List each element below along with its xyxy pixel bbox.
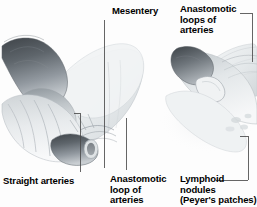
label-anastomotic-loop-of-arteries: Anastomotic loop of arteries (110, 174, 166, 206)
peyers-patch-4 (245, 114, 252, 118)
label-anastomotic-loops-of-arteries: Anastomotic loops of arteries (180, 4, 236, 36)
peyers-patch-2 (240, 124, 248, 129)
right-illustration-group (158, 44, 257, 154)
label-mesentery: Mesentery (112, 6, 158, 17)
peyers-patch-1 (231, 117, 241, 123)
label-lymphoid-nodules: Lymphoid nodules (Peyer's patches) (180, 174, 257, 206)
label-straight-arteries: Straight arteries (3, 176, 74, 187)
anatomy-figure: Mesentery Anastomotic loops of arteries … (0, 0, 257, 207)
left-cut-lumen (87, 143, 95, 155)
peyers-patch-3 (226, 127, 235, 132)
